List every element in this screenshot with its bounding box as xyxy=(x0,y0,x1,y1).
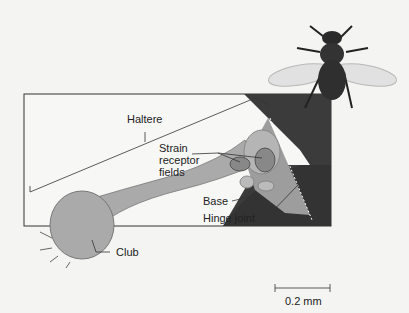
haltere-club xyxy=(50,191,114,259)
label-strain: Strain xyxy=(159,142,188,154)
label-base: Base xyxy=(203,195,228,207)
haltere-diagram: Haltere Strain receptor fields Base Hing… xyxy=(0,0,409,313)
label-receptor: receptor xyxy=(159,154,199,166)
scale-bar-label: 0.2 mm xyxy=(285,295,322,307)
receptor-field-2 xyxy=(255,148,275,172)
label-hinge-joint: Hinge joint xyxy=(203,212,255,224)
label-haltere: Haltere xyxy=(127,113,162,125)
diagram-graphic xyxy=(0,0,409,313)
label-club: Club xyxy=(116,246,139,258)
label-fields: fields xyxy=(159,166,185,178)
